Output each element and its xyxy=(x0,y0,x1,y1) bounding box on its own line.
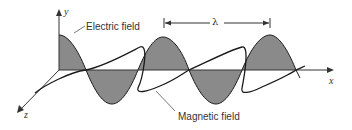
em-wave-diagram: Electric field Magnetic field λ x y z xyxy=(0,0,352,130)
magnetic-field-leader xyxy=(156,91,175,111)
x-axis-label: x xyxy=(329,76,333,86)
electric-field-leader xyxy=(74,26,85,33)
electric-field-label: Electric field xyxy=(86,22,140,32)
y-axis-label: y xyxy=(64,7,68,17)
em-wave-svg xyxy=(0,0,352,130)
magnetic-field-label: Magnetic field xyxy=(178,112,240,122)
z-axis-label: z xyxy=(24,110,28,120)
wavelength-label: λ xyxy=(210,17,220,27)
